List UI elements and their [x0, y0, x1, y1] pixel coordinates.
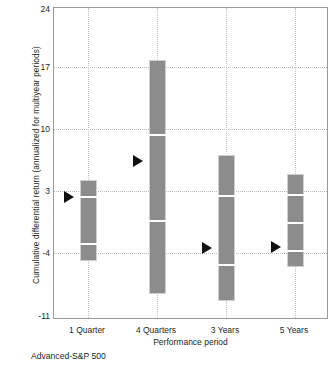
- chart-figure: Cumulative differential return (annualiz…: [0, 0, 336, 366]
- bar-3-years-break-line: [218, 264, 235, 266]
- gridline-y-17: [54, 67, 327, 68]
- y-tick-label-17: 17: [8, 62, 50, 72]
- gridline-y-10: [54, 129, 327, 130]
- bar-5-years-break-line-lower: [287, 250, 304, 252]
- chart-caption: Advanced-S&P 500: [31, 351, 106, 361]
- y-tick-label-10: 10: [8, 124, 50, 134]
- bar-5-years-median-line: [287, 222, 304, 224]
- bar-4-quarters-median-line: [149, 134, 166, 136]
- bar-3-years: [218, 155, 235, 301]
- gridline-x-5-years: [295, 8, 296, 318]
- bar-1-quarter-break-line: [80, 243, 97, 245]
- bar-5-years: [287, 174, 304, 267]
- bar-4-quarters: [149, 60, 166, 294]
- marker-5-years: [271, 241, 281, 253]
- x-tick-label-3-years: 3 Years: [190, 325, 260, 335]
- x-tick-label-1-quarter: 1 Quarter: [52, 325, 122, 335]
- x-axis-title: Performance period: [53, 337, 328, 347]
- bar-3-years-median-line: [218, 195, 235, 197]
- bar-1-quarter-median-line: [80, 196, 97, 198]
- y-tick-label-neg4: -4: [8, 248, 50, 258]
- marker-4-quarters: [133, 155, 143, 167]
- y-tick-label-24: 24: [8, 4, 50, 14]
- x-tick-label-5-years: 5 Years: [259, 325, 329, 335]
- gridline-x-1-quarter: [88, 8, 89, 318]
- marker-3-years: [202, 242, 212, 254]
- bar-5-years-break-line-upper: [287, 194, 304, 196]
- bar-1-quarter: [80, 180, 97, 261]
- y-tick-label-neg11: -11: [8, 311, 50, 321]
- plot-inner: [54, 8, 327, 318]
- marker-1-quarter: [64, 191, 74, 203]
- y-tick-label-3: 3: [8, 186, 50, 196]
- plot-area: [53, 7, 328, 319]
- bar-4-quarters-break-line: [149, 220, 166, 222]
- x-tick-label-4-quarters: 4 Quarters: [121, 325, 191, 335]
